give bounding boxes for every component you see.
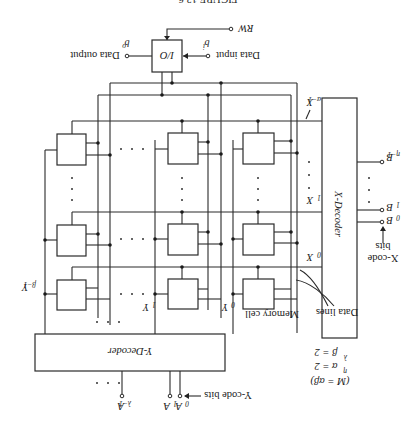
- memory-cell: [43, 267, 110, 310]
- x-output-alpha-1-sub: α−1: [308, 95, 321, 104]
- data-input-sub: i: [203, 42, 205, 51]
- x-output-0: X: [306, 252, 314, 263]
- memory-cell-label: Memory cell: [245, 309, 299, 320]
- memory-cell: [153, 265, 221, 309]
- io-block: I/O RW Data input b i Data output b o: [70, 23, 260, 72]
- memory-cell: [233, 119, 299, 164]
- y-output-beta-1-sub: β−1: [23, 280, 37, 289]
- data-input-label: Data input: [216, 50, 260, 61]
- memory-cell-grid: [43, 119, 299, 310]
- y-decoder: Y-Decoder A 0 A 1 A λ−1 Y-code bits Y β−…: [21, 280, 252, 412]
- eq-alpha-exp: η: [343, 367, 347, 376]
- memory-organization-diagram: I/O RW Data input b i Data output b o X-…: [0, 0, 416, 430]
- memory-cell: [155, 119, 223, 164]
- y-output-1-sub: 1: [152, 300, 156, 309]
- figure-caption: FIGURE 13.6: [179, 0, 238, 5]
- x-output-0-sub: 0: [317, 250, 321, 259]
- y-output-0: Y: [221, 302, 228, 313]
- x-input-b0: B: [386, 215, 393, 226]
- memory-cell: [231, 210, 299, 255]
- x-output-1: X: [306, 195, 314, 206]
- eq-alpha: α = 2: [314, 361, 338, 372]
- data-lines-label: Data lines: [316, 307, 358, 318]
- y-decoder-label: Y-Decoder: [107, 346, 153, 357]
- y-output-1: Y: [142, 302, 149, 313]
- io-label: I/O: [160, 50, 175, 61]
- y-input-a0-sub: 0: [185, 399, 189, 408]
- x-input-b0-sub: 0: [396, 213, 400, 222]
- y-input-a1-sub: 1: [173, 399, 177, 408]
- data-bus: [98, 72, 297, 97]
- memory-cell: [45, 121, 112, 165]
- memory-cell: [43, 212, 112, 256]
- rw-label: RW: [237, 23, 254, 34]
- memory-cell: [153, 210, 223, 255]
- eq-beta: β = 2: [314, 347, 339, 358]
- data-output-label: Data output: [70, 50, 119, 61]
- x-decoder-label: X-Decoder: [333, 190, 344, 238]
- x-input-b1-sub: 1: [396, 200, 400, 209]
- eq-beta-exp: λ: [343, 353, 348, 362]
- x-code-bits-line2: bits: [375, 241, 390, 252]
- data-output-sub: o: [122, 42, 126, 51]
- x-code-bits-line1: X-code: [367, 253, 398, 264]
- y-code-bits-label: Y-code bits: [204, 390, 252, 401]
- y-input-a-lambda-1-sub: λ−1: [119, 399, 132, 408]
- y-output-0-sub: 0: [231, 300, 235, 309]
- y-input-a1: A: [163, 401, 171, 412]
- x-input-bn-1-sub: η−1: [387, 150, 400, 159]
- x-input-b1: B: [386, 202, 393, 213]
- memory-cell: [231, 265, 297, 309]
- x-decoder: X-Decoder B η−1 B 1 B 0 bits X-code X α−…: [306, 95, 400, 338]
- x-output-1-sub: 1: [317, 193, 321, 202]
